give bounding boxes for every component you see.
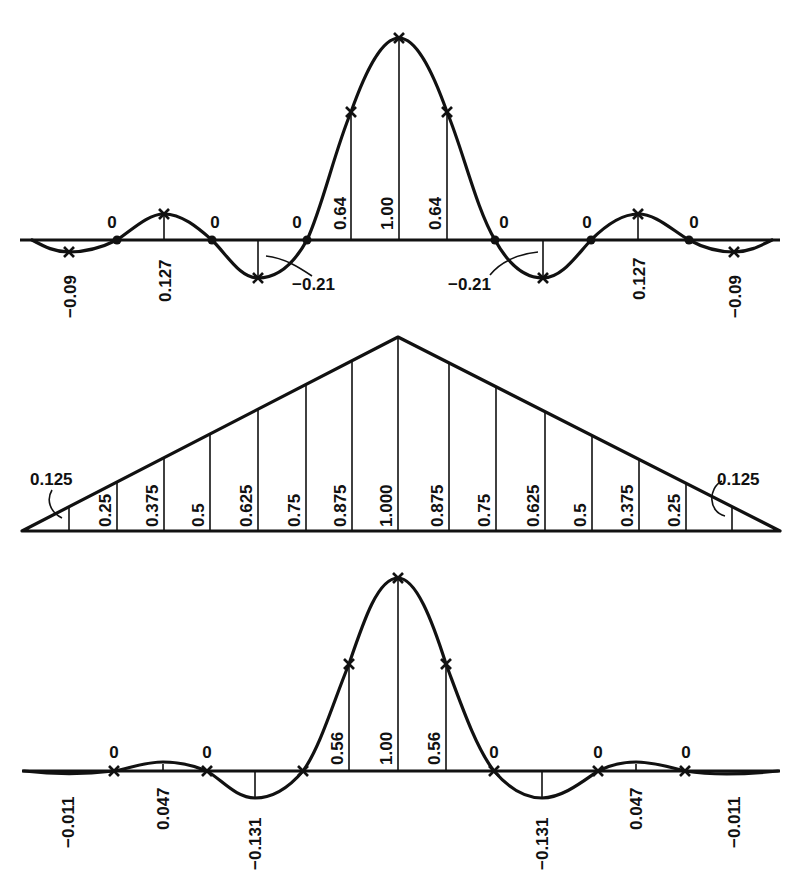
label-zero: 0 <box>109 743 118 762</box>
bottom-sample-markers <box>109 573 690 776</box>
label-value: −0.21 <box>448 275 491 294</box>
label-value: 1.00 <box>378 197 397 230</box>
label-value: 1.00 <box>377 732 396 765</box>
zero-dot-icon <box>491 236 500 245</box>
label-value: 0.75 <box>475 494 494 527</box>
label-value: 0.047 <box>154 787 173 830</box>
label-value: −0.011 <box>59 796 78 848</box>
diagram-canvas: 0 0 0 0 0 0 −0.09 0.127 −0.21 0.64 1.00 … <box>0 0 804 888</box>
label-value: −0.131 <box>533 818 552 870</box>
label-value: −0.21 <box>292 275 335 294</box>
label-value: −0.011 <box>725 796 744 848</box>
middle-panel-triangle: 0.125 0.25 0.375 0.5 0.625 0.75 0.875 1.… <box>22 337 780 531</box>
label-zero: 0 <box>681 743 690 762</box>
label-zero: 0 <box>107 213 116 232</box>
label-zero: 0 <box>593 743 602 762</box>
label-value: −0.131 <box>246 818 265 870</box>
label-value: 0.5 <box>571 503 590 527</box>
label-value: 0.127 <box>630 257 649 300</box>
label-zero: 0 <box>210 213 219 232</box>
label-value: 0.56 <box>328 732 347 765</box>
label-value: 0.375 <box>618 484 637 527</box>
label-value: −0.09 <box>61 275 80 318</box>
label-value: 0.25 <box>96 494 115 527</box>
label-value: −0.09 <box>726 275 745 318</box>
zero-dot-icon <box>303 236 312 245</box>
label-value: 0.64 <box>426 196 445 230</box>
label-value: 1.000 <box>377 484 396 527</box>
top-sample-markers <box>64 33 739 283</box>
zero-dot-icon <box>208 236 217 245</box>
top-sinc-curve <box>32 38 772 278</box>
label-zero: 0 <box>489 743 498 762</box>
zero-dot-icon <box>685 236 694 245</box>
label-value: 0.625 <box>237 484 256 527</box>
label-value: 0.875 <box>331 484 350 527</box>
label-zero: 0 <box>202 743 211 762</box>
top-panel-sinc: 0 0 0 0 0 0 −0.09 0.127 −0.21 0.64 1.00 … <box>20 33 780 318</box>
zero-dot-icon <box>587 236 596 245</box>
leader-line-left <box>49 490 62 518</box>
label-value: 0.64 <box>331 196 350 230</box>
label-value: 0.625 <box>524 484 543 527</box>
label-zero: 0 <box>292 213 301 232</box>
label-value: 0.56 <box>425 732 444 765</box>
zero-dot-icon <box>113 236 122 245</box>
label-zero: 0 <box>689 213 698 232</box>
bottom-panel-windowed: 0 0 0 0 0 −0.011 0.047 −0.131 0.56 1.00 … <box>22 573 780 870</box>
label-value: 0.125 <box>30 470 73 489</box>
label-value: 0.127 <box>156 259 175 302</box>
label-value: 0.375 <box>143 484 162 527</box>
label-value: 0.875 <box>428 484 447 527</box>
label-zero: 0 <box>582 213 591 232</box>
label-value: 0.125 <box>717 470 760 489</box>
bottom-windowed-curve <box>24 578 778 798</box>
label-value: 0.75 <box>285 494 304 527</box>
label-zero: 0 <box>499 213 508 232</box>
label-value: 0.047 <box>627 787 646 830</box>
label-value: 0.5 <box>189 503 208 527</box>
label-value: 0.25 <box>665 494 684 527</box>
